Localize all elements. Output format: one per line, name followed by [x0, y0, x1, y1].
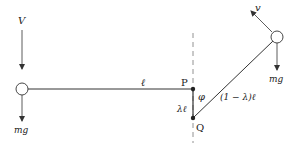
pendulum-diagram: V mg ℓ P Q φ λℓ (1 − λ)ℓ v mg: [0, 0, 296, 149]
rod-right: [193, 41, 273, 118]
label-one-minus-lambda-ell: (1 − λ)ℓ: [220, 92, 256, 102]
diagram-canvas: V mg ℓ P Q φ λℓ (1 − λ)ℓ v mg: [0, 0, 296, 149]
label-phi: φ: [198, 91, 205, 102]
label-ell: ℓ: [141, 77, 145, 88]
label-v: v: [255, 2, 261, 13]
label-mg-right: mg: [269, 74, 284, 84]
label-V: V: [18, 15, 27, 26]
right-mass-circle: [271, 31, 283, 43]
label-mg-left: mg: [14, 125, 29, 135]
velocity-v-arrow-icon: [251, 11, 272, 32]
label-lambda-ell: λℓ: [176, 104, 187, 114]
point-p-dot: [191, 87, 195, 91]
label-P: P: [181, 77, 188, 88]
left-mass-circle: [16, 83, 28, 95]
label-Q: Q: [196, 122, 204, 133]
point-q-dot: [191, 116, 195, 120]
